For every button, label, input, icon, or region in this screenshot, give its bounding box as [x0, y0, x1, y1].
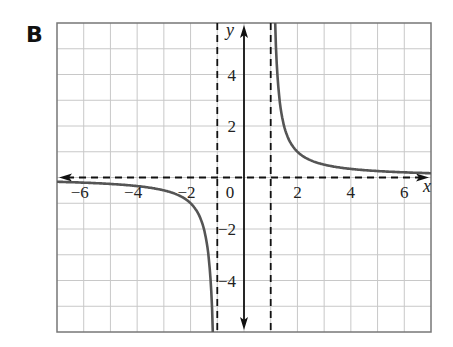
y-tick-label: 4	[228, 66, 237, 85]
x-tick-label: 6	[400, 183, 409, 202]
x-axis-label: x	[422, 176, 431, 196]
curve-left-branch	[57, 182, 213, 332]
y-tick-label: −4	[218, 272, 237, 291]
x-tick-label: −6	[71, 183, 89, 202]
x-tick-label: 0	[226, 183, 235, 202]
x-tick-label: −4	[124, 183, 143, 202]
x-tick-label: 2	[293, 183, 302, 202]
y-axis-label: y	[224, 20, 234, 40]
curve-right-branch	[275, 23, 431, 173]
graph: −6−4−2024642−2−4xy	[0, 0, 453, 347]
x-tick-label: −2	[178, 183, 196, 202]
tick-labels: −6−4−2024642−2−4xy	[71, 20, 431, 291]
x-tick-label: 4	[347, 183, 356, 202]
y-tick-label: 2	[228, 117, 237, 136]
y-tick-label: −2	[218, 220, 236, 239]
